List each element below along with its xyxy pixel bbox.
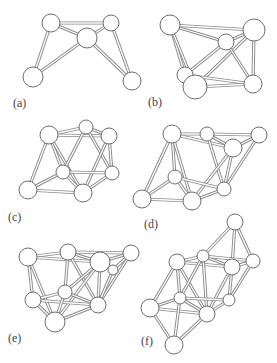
atom (169, 254, 185, 270)
atom (168, 170, 182, 184)
atom (227, 214, 243, 230)
atom (246, 254, 260, 268)
atom (243, 19, 265, 41)
atom (58, 285, 72, 299)
panel-label-a: (a) (13, 97, 26, 109)
clipped-header-text (155, 0, 156, 5)
panel-label-d: (d) (144, 218, 158, 230)
atom (77, 28, 97, 48)
atom (25, 292, 41, 308)
atom (40, 126, 58, 144)
atom (160, 15, 180, 35)
atom (108, 265, 118, 275)
atom (74, 184, 92, 202)
atom (123, 245, 139, 261)
atom (103, 15, 119, 31)
atom (42, 14, 60, 32)
atom (133, 190, 151, 208)
panel-label-b: (b) (148, 96, 162, 108)
atom (79, 120, 93, 134)
panel-atoms-d (133, 125, 267, 210)
atom (101, 128, 117, 144)
panel-label-f: (f) (141, 335, 153, 347)
atom (217, 182, 231, 196)
atom (183, 75, 207, 99)
cluster-figure (0, 0, 277, 363)
atom (123, 72, 141, 90)
atom (90, 252, 110, 272)
atom (19, 248, 37, 266)
atom (19, 181, 37, 199)
atom (165, 336, 183, 354)
atom (251, 127, 267, 143)
atom (105, 166, 119, 180)
atom (199, 306, 215, 322)
atom (183, 192, 201, 210)
panel-label-c: (c) (8, 211, 21, 223)
panel-e (28, 252, 131, 322)
panel-f (150, 222, 253, 345)
atom (45, 312, 65, 332)
atom (218, 34, 234, 50)
atom (197, 250, 209, 262)
atom (224, 259, 240, 275)
atom (90, 297, 106, 313)
atom (23, 67, 43, 87)
atom (200, 127, 214, 141)
atom (163, 125, 181, 143)
atom (56, 165, 70, 179)
atom (60, 244, 76, 260)
atom (141, 299, 159, 317)
atom (174, 292, 186, 304)
atom (224, 139, 242, 157)
panel-label-e: (e) (8, 332, 21, 344)
atom (244, 75, 262, 93)
atom (223, 294, 235, 306)
